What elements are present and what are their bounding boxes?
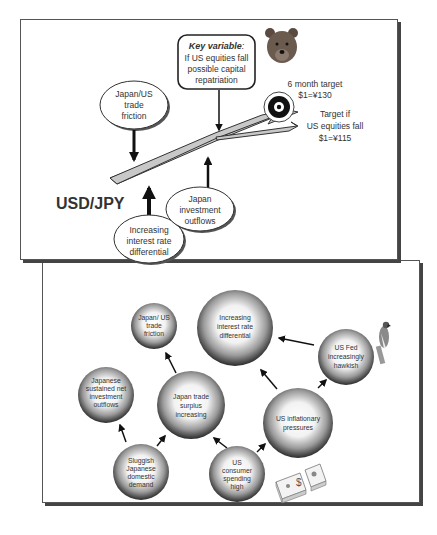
svg-text:interest rate: interest rate	[127, 236, 172, 246]
svg-text:Key variable:: Key variable:	[189, 41, 245, 51]
svg-text:outflows: outflows	[94, 401, 120, 408]
svg-text:$: $	[296, 477, 302, 488]
node-domestic-demand: Sluggish Japanese domestic demand	[113, 444, 169, 500]
svg-text:interest rate: interest rate	[217, 323, 253, 330]
key-variable-box: Key variable: If US equities fall possib…	[178, 35, 255, 89]
svg-text:domestic: domestic	[127, 473, 155, 480]
svg-text:US equities fall: US equities fall	[307, 121, 364, 131]
node-rate-differential: Increasing interest rate differential	[197, 290, 273, 366]
pair-label: USD/JPY	[56, 195, 125, 212]
bear-icon	[265, 28, 298, 63]
svg-text:high: high	[231, 483, 244, 491]
svg-text:spending: spending	[223, 475, 251, 483]
six-month-target-label: 6 month target $1=¥130	[288, 79, 343, 100]
svg-text:possible capital: possible capital	[187, 64, 245, 74]
svg-text:$1=¥115: $1=¥115	[319, 133, 352, 143]
svg-text:trade: trade	[124, 100, 144, 110]
svg-text:Target if: Target if	[320, 109, 351, 119]
svg-text:consumer: consumer	[222, 467, 253, 474]
svg-text:investment: investment	[179, 205, 221, 215]
svg-text:repatriation: repatriation	[195, 75, 238, 85]
svg-text:US Fed: US Fed	[334, 344, 357, 351]
svg-text:6 month target: 6 month target	[288, 79, 343, 89]
node-trade-friction: Japan/ US trade friction	[131, 303, 177, 349]
svg-text:demand: demand	[129, 481, 154, 488]
node-inflation: US inflationary pressures	[263, 388, 333, 458]
svg-text:Japan/ US: Japan/ US	[138, 314, 170, 322]
svg-text:surplus: surplus	[180, 402, 203, 410]
svg-text:Sluggish: Sluggish	[128, 457, 154, 465]
svg-text:friction: friction	[144, 330, 164, 337]
bullseye-icon	[264, 92, 294, 122]
equities-fall-target-label: Target if US equities fall $1=¥115	[307, 109, 364, 143]
hawk-icon	[376, 322, 391, 364]
money-stack-icon: $	[276, 464, 326, 503]
svg-text:If US equities fall: If US equities fall	[185, 53, 249, 63]
svg-text:differential: differential	[129, 247, 168, 257]
svg-text:friction: friction	[121, 111, 146, 121]
svg-text:Increasing: Increasing	[219, 314, 251, 322]
svg-text:pressures: pressures	[283, 424, 313, 432]
svg-text:increasingly: increasingly	[328, 353, 364, 361]
node-net-outflows: Japanese sustained net investment outflo…	[78, 367, 134, 423]
svg-text:increasing: increasing	[176, 411, 207, 419]
svg-text:Japanese: Japanese	[126, 465, 156, 473]
svg-text:differential: differential	[219, 332, 251, 339]
diagram-canvas: Key variable: If US equities fall possib…	[0, 0, 437, 535]
svg-text:outflows: outflows	[184, 216, 215, 226]
svg-text:hawkish: hawkish	[334, 362, 359, 369]
factor-trade-friction: Japan/US trade friction	[100, 81, 170, 131]
svg-text:Japan trade: Japan trade	[173, 393, 209, 401]
svg-text:trade: trade	[146, 322, 162, 329]
svg-text:Increasing: Increasing	[129, 225, 168, 235]
svg-text:US: US	[232, 459, 242, 466]
svg-text:Japan/US: Japan/US	[115, 89, 153, 99]
node-trade-surplus: Japan trade surplus increasing	[157, 371, 225, 439]
svg-text:Japan: Japan	[188, 194, 211, 204]
node-consumer-spending: US consumer spending high	[209, 446, 265, 502]
svg-text:Japanese: Japanese	[91, 377, 121, 385]
node-fed-hawkish: US Fed increasingly hawkish	[318, 329, 374, 385]
svg-text:$1=¥130: $1=¥130	[298, 90, 332, 100]
svg-text:investment: investment	[90, 393, 123, 400]
svg-text:US inflationary: US inflationary	[276, 415, 321, 423]
svg-text:sustained net: sustained net	[86, 385, 127, 392]
